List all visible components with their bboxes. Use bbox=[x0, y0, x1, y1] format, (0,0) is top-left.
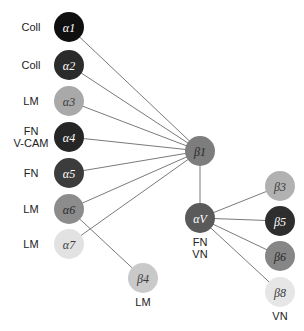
node-label: α5 bbox=[63, 167, 75, 181]
node-b1: β1 bbox=[185, 136, 215, 166]
node-label: α6 bbox=[63, 203, 75, 217]
node-a3: α3 bbox=[54, 86, 84, 116]
node-b3: β3 bbox=[265, 171, 295, 201]
node-label: α7 bbox=[63, 238, 76, 252]
node-a6: α6 bbox=[54, 194, 84, 224]
node-a4: α4 bbox=[54, 122, 84, 152]
ligand-label: FN bbox=[193, 236, 208, 248]
ligand-label: FN bbox=[24, 167, 39, 179]
edge-a6-b1 bbox=[69, 151, 200, 209]
ligand-label: LM bbox=[23, 203, 38, 215]
nodes-layer: α1α2α3α4α5α6α7β1αVβ4β3β5β6β8 bbox=[54, 12, 295, 307]
edges-layer bbox=[69, 27, 280, 292]
ligand-label: Coll bbox=[22, 59, 41, 71]
node-label: α3 bbox=[63, 95, 75, 109]
node-label: β8 bbox=[273, 286, 286, 300]
ligand-label: LM bbox=[23, 95, 38, 107]
node-b5: β5 bbox=[265, 206, 295, 236]
node-label: β5 bbox=[273, 215, 286, 229]
edge-a7-b1 bbox=[69, 151, 200, 244]
edge-a5-b1 bbox=[69, 151, 200, 173]
node-a1: α1 bbox=[54, 12, 84, 42]
integrin-diagram: α1α2α3α4α5α6α7β1αVβ4β3β5β6β8 CollCollLMF… bbox=[0, 0, 304, 331]
node-label: β6 bbox=[273, 250, 286, 264]
ligand-label: Coll bbox=[22, 21, 41, 33]
node-label: α4 bbox=[63, 131, 75, 145]
node-label: α1 bbox=[63, 21, 75, 35]
node-av: αV bbox=[185, 203, 215, 233]
node-a7: α7 bbox=[54, 229, 84, 259]
node-label: β4 bbox=[136, 272, 149, 286]
ligand-label: LM bbox=[23, 238, 38, 250]
ligand-label: LM bbox=[135, 296, 150, 308]
node-b6: β6 bbox=[265, 241, 295, 271]
node-b8: β8 bbox=[265, 277, 295, 307]
edge-a1-b1 bbox=[69, 27, 200, 151]
node-a5: α5 bbox=[54, 158, 84, 188]
node-label: α2 bbox=[63, 59, 75, 73]
ligand-label: V-CAM bbox=[14, 137, 49, 149]
node-label: β1 bbox=[193, 145, 206, 159]
node-label: β3 bbox=[273, 180, 286, 194]
node-b4: β4 bbox=[128, 263, 158, 293]
node-label: αV bbox=[193, 212, 208, 226]
node-a2: α2 bbox=[54, 50, 84, 80]
ligand-label: FN bbox=[24, 125, 39, 137]
ligand-label: VN bbox=[192, 248, 207, 260]
ligand-label: VN bbox=[272, 310, 287, 322]
